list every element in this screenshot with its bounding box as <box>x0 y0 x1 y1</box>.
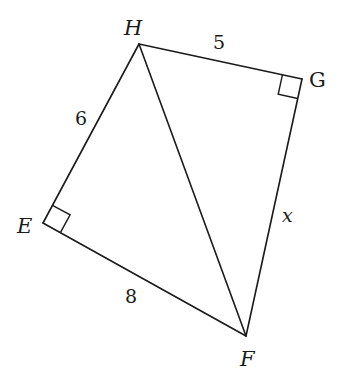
side-label-eh: 6 <box>75 107 87 129</box>
edge-gf <box>246 79 302 336</box>
right-angle-marker-e <box>53 205 71 232</box>
diagonal-hf <box>139 44 246 336</box>
vertex-label-f: F <box>239 347 256 371</box>
side-label-gf: x <box>282 204 293 226</box>
edge-fe <box>43 223 246 336</box>
side-label-hg: 5 <box>213 31 225 53</box>
vertex-label-e: E <box>16 214 32 238</box>
vertex-label-h: H <box>123 16 143 40</box>
right-angle-marker-g <box>278 75 298 99</box>
edge-eh <box>43 44 139 223</box>
side-label-fe: 8 <box>125 285 137 307</box>
geometry-diagram: H G E F 5 6 8 x <box>0 0 340 385</box>
vertex-label-g: G <box>309 68 326 92</box>
